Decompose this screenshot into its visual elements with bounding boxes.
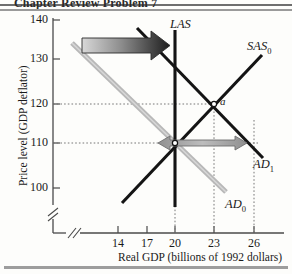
curve-label-sas0-text: SAS — [247, 39, 267, 53]
curve-label-sas0: SAS0 — [247, 40, 271, 55]
chart-page: Chapter Review Problem 7 — [0, 0, 292, 274]
curve-label-ad0-sub: 0 — [242, 204, 246, 214]
x-tick-label-23: 23 — [201, 237, 227, 249]
curve-label-las: LAS — [170, 18, 191, 31]
y-tick-label-140: 140 — [22, 13, 48, 25]
curve-label-ad0-text: AD — [225, 197, 242, 211]
x-tick-label-17: 17 — [134, 237, 160, 249]
x-tick-marks — [118, 226, 254, 233]
point-intersection-marker — [172, 140, 177, 145]
curve-label-ad1-sub: 1 — [270, 164, 274, 174]
curve-label-ad1: AD1 — [253, 158, 274, 173]
x-tick-label-26: 26 — [241, 237, 267, 249]
curve-label-las-text: LAS — [170, 17, 191, 31]
curve-sas0 — [122, 55, 262, 203]
point-a-marker — [211, 101, 216, 106]
x-tick-label-14: 14 — [105, 237, 131, 249]
curve-label-ad1-text: AD — [253, 157, 270, 171]
y-axis-title: Price level (GDP deflator) — [18, 56, 30, 196]
x-tick-label-20: 20 — [162, 237, 188, 249]
footer-rule — [4, 266, 288, 269]
x-axis-title: Real GDP (billions of 1992 dollars) — [118, 252, 282, 264]
as-ad-chart: 140 130 120 110 100 14 17 20 23 26 Real … — [0, 0, 292, 274]
point-label-a: a — [220, 96, 226, 107]
annotation-ad-shift-arrow — [82, 31, 170, 60]
curve-label-ad0: AD0 — [225, 198, 246, 213]
x-axis-break-icon — [68, 228, 81, 238]
curve-label-sas0-sub: 0 — [267, 46, 271, 56]
